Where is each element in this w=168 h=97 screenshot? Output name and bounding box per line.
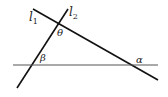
label-l1: l1	[29, 10, 38, 26]
geometry-diagram: l1 l2 θ β α	[0, 0, 168, 97]
line-l1	[33, 9, 158, 80]
label-l2: l2	[69, 5, 78, 21]
line-l2	[17, 9, 68, 88]
angle-alpha: α	[136, 54, 143, 65]
angle-beta: β	[39, 52, 46, 63]
angle-theta: θ	[57, 27, 63, 38]
diagram-svg: l1 l2 θ β α	[0, 0, 168, 97]
